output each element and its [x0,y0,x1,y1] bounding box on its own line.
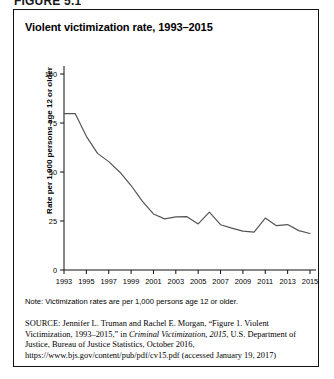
x-tick-label: 2011 [257,277,273,286]
y-tick-label: 25 [49,217,57,226]
x-tick-label: 1999 [123,277,139,286]
x-tick-label: 2001 [145,277,161,286]
x-tick-label: 1997 [101,277,117,286]
chart-plot-area: Rate per 1,000 persons age 12 or older 0… [14,48,318,288]
x-tick-label: 1993 [56,277,72,286]
chart-source: SOURCE: Jennifer L. Truman and Rachel E.… [25,319,313,361]
x-tick-label: 2003 [168,277,184,286]
x-tick-label: 2009 [235,277,251,286]
chart-note: Note: Victimization rates are per 1,000 … [25,297,309,307]
line-chart: 0255075100199319951997199920012003200520… [14,48,318,288]
y-axis-label: Rate per 1,000 persons age 12 or older [45,66,54,216]
data-line-violent-victimization-rate [64,114,310,234]
x-tick-label: 2015 [302,277,318,286]
x-tick-label: 2013 [279,277,295,286]
x-tick-label: 2005 [190,277,206,286]
figure-page: FIGURE 5.1 Violent victimization rate, 1… [0,0,334,379]
figure-box: Violent victimization rate, 1993–2015 Ra… [13,9,319,367]
x-tick-label: 2007 [212,277,228,286]
source-label: SOURCE: [25,319,60,328]
chart-title: Violent victimization rate, 1993–2015 [25,21,213,33]
y-tick-label: 0 [53,266,57,275]
source-italic-title: Criminal Victimization, 2015 [129,330,226,339]
figure-caption: FIGURE 5.1 [14,0,81,6]
x-tick-label: 1995 [78,277,94,286]
